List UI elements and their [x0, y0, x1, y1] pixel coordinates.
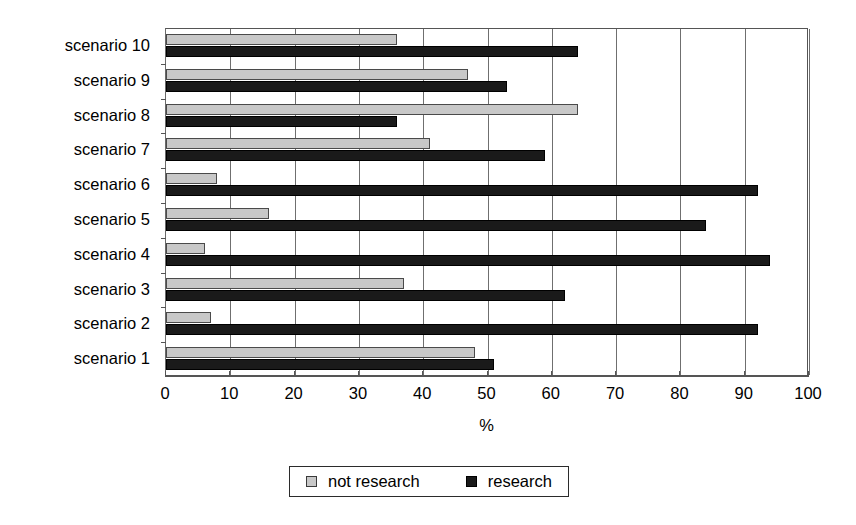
bar-not-research: [166, 69, 468, 80]
y-axis-labels: scenario 10scenario 9scenario 8scenario …: [0, 28, 160, 376]
bar-rows: [166, 29, 807, 375]
bar-not-research: [166, 312, 211, 323]
y-axis-tick: [161, 342, 166, 343]
bar-not-research: [166, 278, 404, 289]
bar-group: [166, 99, 807, 134]
y-axis-label-scenario-9: scenario 9: [74, 63, 150, 98]
x-axis-tick-label-20: 20: [284, 384, 302, 403]
bar-not-research: [166, 104, 578, 115]
legend-item-research: research: [466, 472, 552, 491]
bar-research: [166, 185, 758, 196]
x-axis-tick-label-10: 10: [220, 384, 238, 403]
y-axis-label-scenario-6: scenario 6: [74, 167, 150, 202]
y-axis-label-scenario-2: scenario 2: [74, 306, 150, 341]
y-axis-label-scenario-10: scenario 10: [65, 28, 150, 63]
x-axis-title: %: [165, 416, 808, 435]
x-axis-tick-label-90: 90: [735, 384, 753, 403]
bar-group: [166, 64, 807, 99]
y-axis-tick: [161, 238, 166, 239]
x-axis-tick-40: [422, 371, 423, 377]
legend-label-research: research: [488, 472, 552, 491]
bar-group: [166, 29, 807, 64]
x-axis-tick-30: [358, 371, 359, 377]
y-axis-label-scenario-3: scenario 3: [74, 272, 150, 307]
y-axis-label-scenario-1: scenario 1: [74, 341, 150, 376]
bar-not-research: [166, 347, 475, 358]
y-axis-tick: [161, 168, 166, 169]
x-axis-tick-label-30: 30: [349, 384, 367, 403]
bar-research: [166, 46, 578, 57]
bar-research: [166, 255, 770, 266]
x-axis-tick-label-60: 60: [542, 384, 560, 403]
legend-swatch-not-research-icon: [306, 476, 317, 487]
legend-swatch-research-icon: [466, 476, 477, 487]
y-axis-label-scenario-7: scenario 7: [74, 132, 150, 167]
x-axis-tick-0: [165, 371, 166, 377]
bar-research: [166, 116, 397, 127]
bar-research: [166, 290, 565, 301]
x-axis-tick-50: [487, 371, 488, 377]
x-axis-tick-label-80: 80: [670, 384, 688, 403]
x-axis-tick-label-50: 50: [477, 384, 495, 403]
bar-research: [166, 81, 507, 92]
bar-group: [166, 168, 807, 203]
y-axis-tick: [161, 203, 166, 204]
bar-not-research: [166, 138, 430, 149]
x-axis-tick-label-100: 100: [794, 384, 822, 403]
x-axis-tick-10: [229, 371, 230, 377]
plot-area: [165, 28, 808, 376]
bar-group: [166, 238, 807, 273]
bar-not-research: [166, 208, 269, 219]
x-axis-tick-60: [551, 371, 552, 377]
bar-not-research: [166, 243, 205, 254]
x-axis-tick-20: [294, 371, 295, 377]
y-axis-tick: [161, 307, 166, 308]
chart-legend: not research research: [289, 466, 569, 497]
bar-research: [166, 324, 758, 335]
x-axis-tick-label-40: 40: [413, 384, 431, 403]
bar-chart: scenario 10scenario 9scenario 8scenario …: [0, 0, 856, 525]
bar-not-research: [166, 34, 397, 45]
x-axis-tick-label-0: 0: [160, 384, 169, 403]
x-axis-tick-90: [744, 371, 745, 377]
legend-label-not-research: not research: [328, 472, 420, 491]
y-axis-tick: [161, 64, 166, 65]
bar-not-research: [166, 173, 217, 184]
x-axis-tick-label-70: 70: [606, 384, 624, 403]
y-axis-label-scenario-8: scenario 8: [74, 98, 150, 133]
legend-item-not-research: not research: [306, 472, 420, 491]
bar-group: [166, 133, 807, 168]
y-axis-label-scenario-5: scenario 5: [74, 202, 150, 237]
bar-research: [166, 359, 494, 370]
bar-research: [166, 220, 706, 231]
x-axis-tick-100: [808, 371, 809, 377]
bar-group: [166, 307, 807, 342]
x-axis-tick-80: [679, 371, 680, 377]
bar-group: [166, 203, 807, 238]
y-axis-label-scenario-4: scenario 4: [74, 237, 150, 272]
x-axis-tick-70: [615, 371, 616, 377]
y-axis-tick: [161, 273, 166, 274]
bar-research: [166, 150, 545, 161]
gridline-100: [809, 29, 810, 375]
y-axis-tick: [161, 99, 166, 100]
bar-group: [166, 273, 807, 308]
y-axis-tick: [161, 133, 166, 134]
